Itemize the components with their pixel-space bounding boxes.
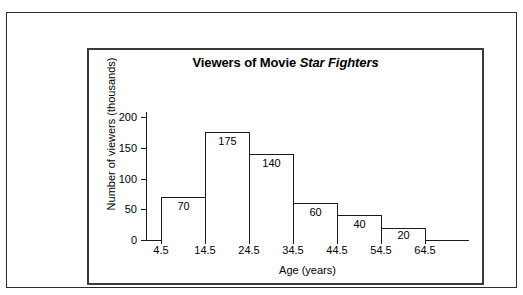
bar-4.5-14.5: 70: [161, 197, 206, 241]
bar-14.5-24.5: 175: [205, 132, 250, 241]
y-tick-mark-0: [141, 240, 147, 241]
x-tick-label-14.5: 14.5: [185, 245, 225, 256]
bar-value-label-40: 40: [338, 218, 381, 230]
x-tick-label-34.5: 34.5: [273, 245, 313, 256]
bar-value-label-20: 20: [382, 229, 425, 241]
page-border: Viewers of Movie Star Fighters 0 50 100 …: [6, 12, 517, 288]
y-tick-mark-50: [141, 209, 147, 210]
bar-24.5-34.5: 140: [249, 154, 294, 241]
bar-value-label-140: 140: [250, 157, 293, 169]
bar-value-label-60: 60: [294, 206, 337, 218]
y-axis-title: Number of viewers (thousands): [105, 34, 117, 234]
bar-value-label-70: 70: [162, 200, 205, 212]
y-tick-mark-100: [141, 179, 147, 180]
y-tick-label-0: 0: [95, 235, 137, 246]
x-tick-label-4.5: 4.5: [141, 245, 181, 256]
y-tick-mark-200: [141, 117, 147, 118]
x-tick-label-64.5: 64.5: [405, 245, 445, 256]
bar-value-label-175: 175: [206, 135, 249, 147]
x-tick-label-44.5: 44.5: [317, 245, 357, 256]
bar-34.5-44.5: 60: [293, 203, 338, 241]
bar-54.5-64.5: 20: [381, 228, 426, 241]
y-tick-mark-150: [141, 148, 147, 149]
x-axis-title: Age (years): [146, 264, 469, 276]
x-tick-label-54.5: 54.5: [361, 245, 401, 256]
x-tick-label-24.5: 24.5: [229, 245, 269, 256]
bar-44.5-54.5: 40: [337, 215, 382, 241]
plot-area: 0 50 100 150 200 4.5 14.5 24.5 34.5 44.5…: [89, 50, 482, 283]
y-axis-line: [146, 112, 147, 240]
chart-frame: Viewers of Movie Star Fighters 0 50 100 …: [87, 48, 484, 285]
